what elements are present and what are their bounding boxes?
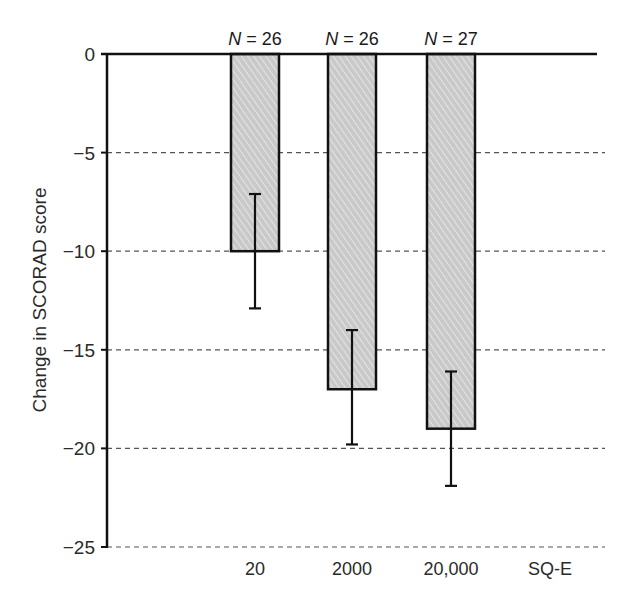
y-tick-label: 0: [84, 44, 95, 65]
y-tick-label: −5: [73, 143, 95, 164]
sample-size-label: N = 26: [325, 29, 379, 49]
y-axis-label: Change in SCORAD score: [29, 188, 50, 413]
bar-chart: 0−5−10−15−20−25N = 2620N = 262000N = 272…: [0, 0, 637, 599]
x-category-label: 20: [245, 559, 265, 579]
labels: 0−5−10−15−20−25N = 2620N = 262000N = 272…: [29, 29, 572, 579]
y-tick-label: −10: [63, 241, 95, 262]
sample-size-label: N = 27: [424, 29, 478, 49]
y-tick-label: −25: [63, 537, 95, 558]
x-category-label: 2000: [332, 559, 372, 579]
y-tick-label: −15: [63, 340, 95, 361]
chart-canvas: 0−5−10−15−20−25N = 2620N = 262000N = 272…: [0, 0, 637, 599]
x-category-label: SQ-E: [528, 559, 572, 579]
x-category-label: 20,000: [423, 559, 478, 579]
sample-size-label: N = 26: [228, 29, 282, 49]
y-tick-label: −20: [63, 438, 95, 459]
bars: [231, 54, 475, 486]
